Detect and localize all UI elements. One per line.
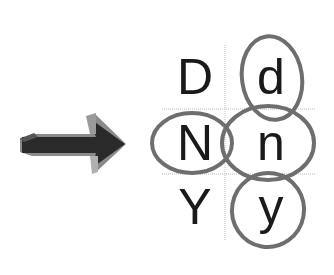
circle-annotations bbox=[0, 0, 334, 275]
